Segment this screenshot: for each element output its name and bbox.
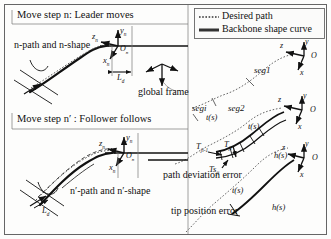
- follower-path-label: n′-path and n′-shape: [70, 186, 150, 196]
- transform-label-ji: Tji: [224, 140, 232, 151]
- transform-arrow-ji-1: [208, 152, 222, 155]
- transform-label-ji-1: Tji-1: [196, 142, 208, 153]
- tangent-label-1: t(s): [206, 113, 217, 122]
- leader-insertion-arrow: [24, 84, 40, 94]
- follower-frame-z-label: zn: [99, 139, 105, 150]
- figure-canvas: Desired path Backbone shape curve Move s…: [0, 0, 331, 239]
- normal-label-2: h(s): [272, 203, 285, 212]
- leader-panel-caption: Move step n: Leader moves: [17, 10, 134, 21]
- frame-middle-z: [284, 106, 302, 110]
- follower-frame-x-axis: [116, 153, 124, 166]
- transform-arrow-tsji: [222, 160, 228, 168]
- leader-frame-origin-label: On: [120, 45, 128, 56]
- global-frame-label: global frame: [138, 87, 189, 97]
- frame-bottom-x-label: x: [300, 171, 304, 179]
- leader-backbone-curve: [30, 46, 106, 92]
- leader-frame-x-label: xn: [103, 56, 109, 67]
- leader-base-line-2: [20, 70, 58, 95]
- frame-bottom-z-label: z: [282, 144, 285, 152]
- leader-frame-y-label: yn: [120, 26, 126, 37]
- legend-label-desired-path: Desired path: [222, 11, 273, 21]
- normal-label-1: h(s): [274, 151, 287, 160]
- segment-tick-2: [212, 98, 216, 106]
- frame-top-y-label: y: [305, 38, 309, 46]
- frame-top-z-label: z: [280, 42, 283, 50]
- frame-bottom-origin-label: O: [312, 154, 318, 162]
- global-frame-axis-z: [162, 64, 178, 71]
- leader-frame-z-label: zn: [92, 32, 98, 43]
- segment-rung-5: [259, 128, 264, 136]
- segment-label-seg1: seg1: [254, 66, 271, 75]
- segment-tick-1: [246, 78, 254, 86]
- follower-frame-origin-label: On: [126, 152, 134, 163]
- tip-position-error-label: tip position error: [171, 206, 238, 216]
- follower-dimension-label: Ld: [42, 206, 49, 217]
- segment-label-segi: segi: [192, 104, 207, 113]
- frame-top-x-label: x: [300, 69, 304, 77]
- leader-dimension-label: Ld: [117, 73, 124, 84]
- global-frame-axis-x: [146, 64, 162, 72]
- leader-path-label: n-path and n-shape: [14, 40, 90, 50]
- legend-label-backbone-shape-curve: Backbone shape curve: [222, 24, 312, 34]
- frame-top-z: [286, 52, 304, 56]
- frame-middle-x-label: x: [298, 123, 302, 131]
- follower-frame-y-label: yn: [126, 133, 132, 144]
- leader-frame-x-axis: [110, 46, 118, 59]
- tangent-label-3: t(s): [232, 186, 243, 195]
- frame-bottom-z: [288, 154, 304, 158]
- frame-middle-z-label: z: [278, 96, 281, 104]
- follower-panel-caption: Move step n′ : Follower follows: [17, 114, 151, 125]
- segment-tick-3: [193, 114, 198, 121]
- frame-middle-y-label: y: [303, 92, 307, 100]
- leader-base-loop: [30, 60, 48, 71]
- follower-frame-x-label: xn: [109, 163, 115, 174]
- transform-arrow-ji: [233, 146, 236, 157]
- frame-bottom-y-label: y: [305, 140, 309, 148]
- frame-top-origin-label: O: [311, 52, 317, 60]
- segment-label-seg2: seg2: [228, 104, 245, 113]
- leader-base-line-1: [14, 80, 52, 104]
- path-deviation-error-label: path deviation error: [163, 170, 242, 180]
- tangent-label-2: t(s): [248, 122, 259, 131]
- frame-middle-origin-label: O: [310, 106, 316, 114]
